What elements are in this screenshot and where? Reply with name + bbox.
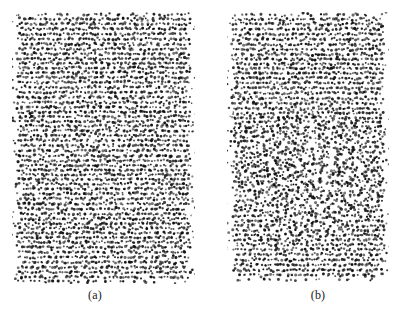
particle-plot-canvas-a	[12, 12, 195, 284]
panel-caption-b: (b)	[278, 288, 358, 302]
particle-plot-panel-b	[227, 12, 389, 282]
particle-plot-panel-a	[12, 12, 195, 284]
figure-root: (a) (b)	[0, 0, 407, 312]
particle-plot-canvas-b	[227, 12, 389, 282]
panel-caption-a: (a)	[55, 288, 135, 302]
